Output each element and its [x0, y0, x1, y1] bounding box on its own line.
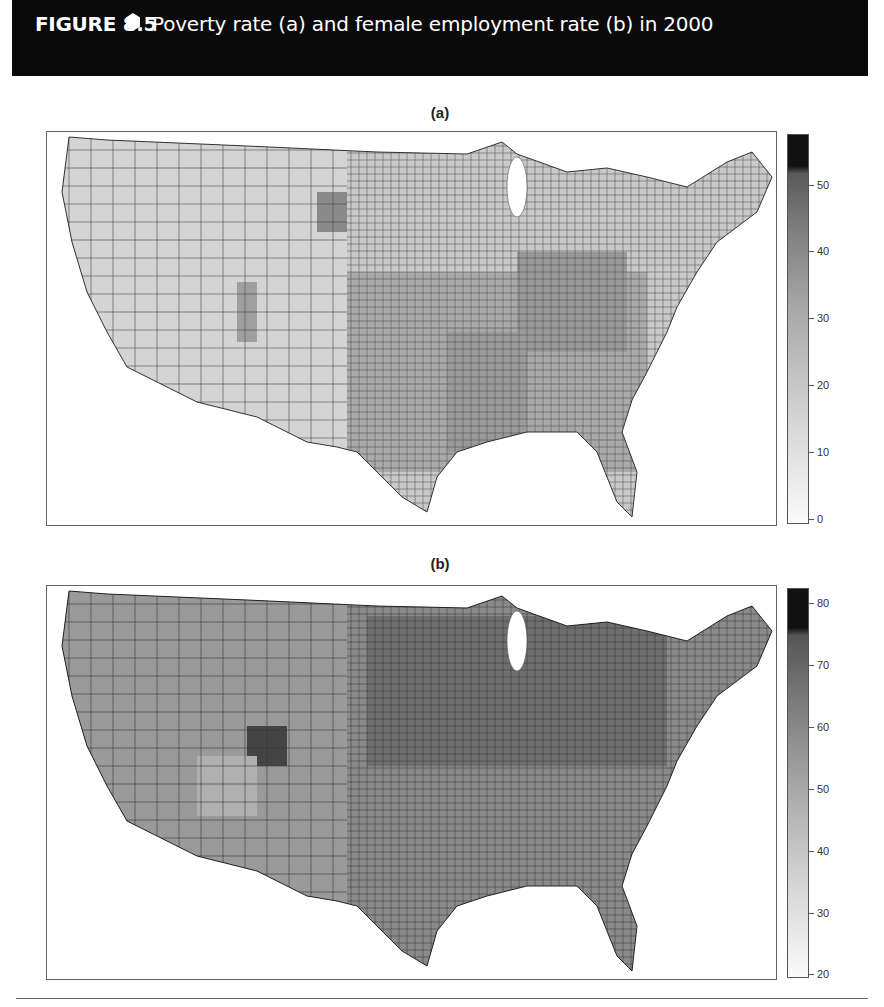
bottom-divider: [16, 998, 868, 999]
colorbar-a-gradient: [787, 134, 809, 524]
colorbar-a-tick: 0: [817, 513, 823, 525]
colorbar-b-tick: 40: [817, 845, 829, 857]
colorbar-a-tick: 10: [817, 446, 829, 458]
hexagon-bullet-icon: [126, 13, 140, 31]
panel-label-a: (a): [410, 104, 470, 121]
panel-label-b: (b): [410, 555, 470, 572]
colorbar-b-tick: 20: [817, 968, 829, 980]
colorbar-a-tick: 20: [817, 379, 829, 391]
colorbar-b-tick: 60: [817, 721, 829, 733]
colorbar-a-tick: 40: [817, 245, 829, 257]
us-county-map-b: [47, 586, 776, 979]
colorbar-a-tick: 50: [817, 179, 829, 191]
colorbar-b-tick: 70: [817, 659, 829, 671]
colorbar-b-gradient: [787, 588, 809, 978]
poverty-rate-map: [46, 131, 777, 526]
colorbar-a-tick: 30: [817, 312, 829, 324]
figure-title: Poverty rate (a) and female employment r…: [152, 12, 792, 37]
colorbar-b-tick: 30: [817, 907, 829, 919]
figure-header: FIGURE 8.5 Poverty rate (a) and female e…: [12, 0, 868, 76]
female-employment-map: [46, 585, 777, 980]
colorbar-b-tick: 50: [817, 783, 829, 795]
colorbar-b-tick: 80: [817, 597, 829, 609]
us-county-map-a: [47, 132, 776, 525]
